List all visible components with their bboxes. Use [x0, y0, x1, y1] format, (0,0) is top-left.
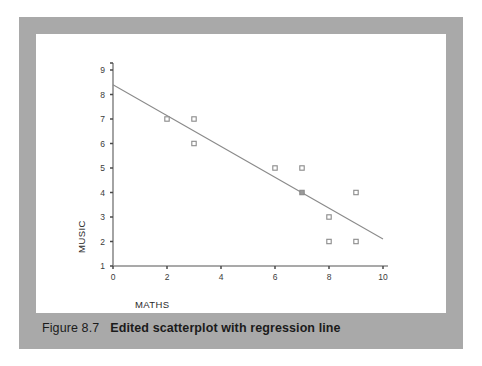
y-tick-label: 5 — [100, 163, 105, 173]
data-point-marker — [327, 239, 331, 243]
data-point-marker — [273, 166, 277, 170]
y-tick-label: 3 — [100, 212, 105, 222]
y-tick-label: 6 — [100, 139, 105, 149]
x-tick-label: 0 — [111, 272, 116, 282]
data-point-marker — [354, 190, 358, 194]
axis-titles-group: MATHSMUSIC — [76, 220, 170, 310]
caption-title: Edited scatterplot with regression line — [110, 321, 340, 335]
regression-line — [113, 85, 383, 239]
axes-group — [113, 63, 388, 266]
y-tick-label: 9 — [100, 65, 105, 75]
data-points-group — [165, 117, 358, 244]
x-axis-title: MATHS — [135, 299, 170, 310]
x-tick-label: 8 — [327, 272, 332, 282]
figure-page: 1234567890246810 MATHSMUSIC Figure 8.7 E… — [0, 0, 482, 366]
y-axis-title: MUSIC — [76, 220, 87, 253]
figure-frame: 1234567890246810 MATHSMUSIC Figure 8.7 E… — [19, 17, 463, 349]
y-tick-label: 4 — [100, 188, 105, 198]
data-point-marker — [192, 117, 196, 121]
x-tick-label: 4 — [219, 272, 224, 282]
data-point-marker — [327, 215, 331, 219]
regression-line-path — [113, 85, 383, 239]
x-tick-label: 2 — [165, 272, 170, 282]
y-tick-label: 7 — [100, 114, 105, 124]
caption-figure-number: Figure 8.7 — [42, 321, 99, 335]
data-point-marker — [354, 239, 358, 243]
x-tick-label: 10 — [378, 272, 388, 282]
x-tick-label: 6 — [273, 272, 278, 282]
figure-caption: Figure 8.7 Edited scatterplot with regre… — [42, 317, 442, 339]
tick-labels-group: 1234567890246810 — [100, 65, 388, 282]
ticks-group — [110, 63, 383, 269]
scatterplot-chart: 1234567890246810 MATHSMUSIC — [36, 34, 446, 313]
plot-panel: 1234567890246810 MATHSMUSIC — [36, 34, 446, 313]
y-tick-label: 2 — [100, 237, 105, 247]
data-point-marker — [300, 190, 304, 194]
y-tick-label: 1 — [100, 261, 105, 271]
y-tick-label: 8 — [100, 90, 105, 100]
data-point-marker — [192, 141, 196, 145]
data-point-marker — [300, 166, 304, 170]
data-point-marker — [165, 117, 169, 121]
